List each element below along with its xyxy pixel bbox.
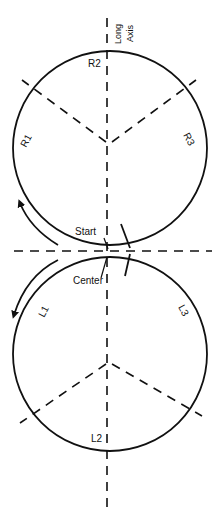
label-start: Start — [75, 226, 96, 237]
lower-radial-l3 — [112, 364, 202, 416]
long-axis-label-1: Long — [113, 24, 123, 44]
long-axis-label-2: Axis — [125, 24, 135, 42]
right-notch-lower — [125, 254, 130, 276]
lower-radial-l1 — [20, 364, 106, 423]
upper-circle — [13, 51, 207, 245]
label-l2: L2 — [91, 433, 103, 444]
label-l3: L3 — [176, 303, 191, 318]
upper-radial-r3 — [112, 80, 196, 142]
label-center: Center — [73, 275, 104, 286]
label-r3: R3 — [181, 131, 197, 148]
label-r2: R2 — [88, 58, 101, 69]
figure-eight-diagram: Long Axis R2 R1 R3 Start Center L1 L3 L2 — [0, 0, 224, 530]
label-l1: L1 — [36, 304, 51, 319]
lower-circle — [13, 257, 207, 451]
lower-direction-arrow — [14, 260, 58, 315]
upper-direction-arrow — [20, 203, 58, 245]
upper-radial-r1 — [22, 80, 106, 142]
label-r1: R1 — [18, 132, 34, 149]
